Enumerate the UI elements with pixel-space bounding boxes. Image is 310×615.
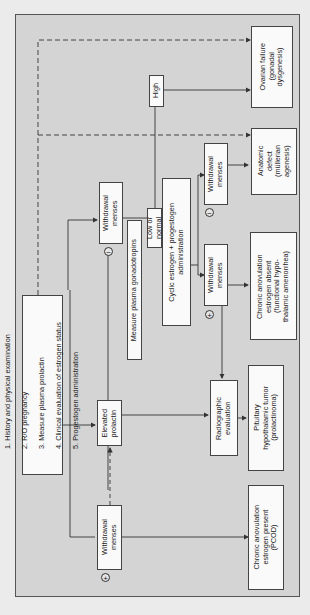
step-item: 3. Measure plasma prolactin <box>38 322 47 449</box>
outcome-ovarian-failure: Ovarian failure (gonadal dysgenesis) <box>251 26 293 108</box>
workup-steps-box: 1. History and physical examination 2. R… <box>22 295 63 475</box>
outcome-anatomic-defect: Anatomic defect (müllerian agenesis) <box>251 128 297 195</box>
low-normal-gonadotropins-node: Low or normal <box>147 208 162 248</box>
outcome-chronic-anovulation-estrogen-present: Chronic anovulation estrogen present (PC… <box>248 485 284 590</box>
high-gonadotropins-node: High <box>149 75 164 107</box>
outcome-chronic-anovulation-estrogen-absent: Chronic anovulation estrogen absent (fun… <box>250 232 297 340</box>
minus-sign-icon: − <box>104 247 113 256</box>
plus-sign-icon: + <box>205 310 214 319</box>
outcome-pituitary-tumor: Pituitary hypothalamic tumor (prolactino… <box>248 365 284 471</box>
measure-gonadotropins-node: Measure plasma gonadotropins <box>127 220 142 360</box>
step-item: 5. Progestogen administration <box>73 322 82 449</box>
withdrawal-menses-positive-node: Withdrawal menses <box>97 505 122 570</box>
step-item: 2. R/O pregnancy <box>21 322 30 449</box>
step-item: 1. History and physical examination <box>4 322 13 449</box>
radiographic-evaluation-node: Radiographic evaluation <box>210 380 238 456</box>
workup-steps-list: 1. History and physical examination 2. R… <box>0 322 90 449</box>
withdrawal-menses-positive-cyclic-node: Withdrawal menses <box>204 244 228 306</box>
plus-sign-icon: + <box>101 573 110 582</box>
minus-sign-icon: − <box>205 208 214 217</box>
withdrawal-menses-negative-cyclic-node: Withdrawal menses <box>204 143 228 205</box>
elevated-prolactin-node: Elevated prolactin <box>97 400 122 446</box>
step-item: 4. Clinical evaluation of estrogen statu… <box>55 322 64 449</box>
cyclic-estrogen-progestogen-node: Cyclic estrogen + progestogen administra… <box>162 178 191 326</box>
withdrawal-menses-negative-node: Withdrawal menses <box>99 182 123 244</box>
